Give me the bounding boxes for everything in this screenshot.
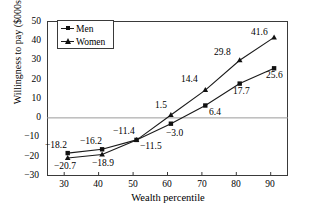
legend-label-women: Women	[76, 37, 105, 47]
point-label-women-1: −18.9	[92, 158, 114, 168]
x-tick-label-40: 40	[86, 179, 110, 189]
point-label-women-4: 14.4	[181, 74, 198, 84]
y-tick-label-20: 20	[15, 75, 41, 84]
chart-container: Willingness to pay ($000s) 50 40 30 20 1…	[0, 0, 311, 213]
x-tick-label-50: 50	[121, 179, 145, 189]
point-label-women-3: 1.5	[155, 100, 167, 110]
point-label-men-0: −18.2	[45, 140, 67, 150]
point-label-men-1: −16.2	[80, 136, 102, 146]
y-tick-label-40: 40	[15, 36, 41, 45]
x-tick-label-70: 70	[190, 179, 214, 189]
legend: Men Women	[57, 20, 114, 49]
legend-item-women: Women	[61, 35, 105, 48]
y-tick-label-30: 30	[15, 55, 41, 64]
y-tick-label-neg20: −20	[13, 152, 39, 161]
x-tick-label-60: 60	[155, 179, 179, 189]
x-tick-label-30: 30	[52, 179, 76, 189]
point-label-women-5: 29.8	[214, 47, 231, 57]
point-label-men-2: −11.4	[113, 126, 135, 136]
x-axis-title: Wealth percentile	[47, 192, 289, 203]
point-label-women-0: −20.7	[54, 161, 76, 171]
x-tick-label-80: 80	[224, 179, 248, 189]
legend-label-men: Men	[76, 24, 93, 34]
legend-marker-square-icon	[61, 23, 74, 34]
y-tick-label-neg30: −30	[13, 171, 39, 180]
x-tick-marks	[64, 172, 271, 176]
point-label-men-4: 6.4	[209, 107, 221, 117]
y-tick-label-10: 10	[15, 94, 41, 103]
point-label-men-6: 25.6	[266, 70, 283, 80]
y-tick-label-neg10: −10	[13, 132, 39, 141]
point-label-women-2: −11.5	[140, 141, 162, 151]
legend-marker-triangle-icon	[61, 36, 74, 47]
y-tick-label-0: 0	[15, 113, 41, 122]
y-tick-label-50: 50	[15, 17, 41, 26]
legend-item-men: Men	[61, 22, 93, 35]
point-label-men-5: 17.7	[233, 86, 250, 96]
x-tick-label-90: 90	[258, 179, 282, 189]
point-label-women-6: 41.6	[251, 27, 268, 37]
point-label-men-3: −3.0	[166, 128, 183, 138]
